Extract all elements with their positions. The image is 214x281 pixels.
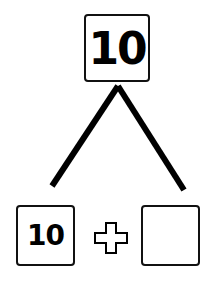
part-box-left: 10 <box>16 205 75 266</box>
part-value-left: 10 <box>27 219 64 252</box>
whole-box: 10 <box>84 14 150 82</box>
whole-value: 10 <box>88 23 145 74</box>
plus-icon <box>95 223 127 253</box>
part-box-right-empty[interactable] <box>141 205 200 266</box>
